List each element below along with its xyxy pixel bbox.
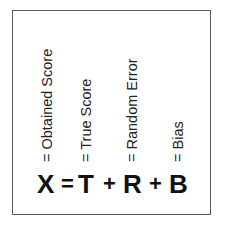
term-b: B <box>169 171 188 197</box>
label-random-error: = Random Error <box>125 58 140 162</box>
operator-plus-2: + <box>149 173 162 195</box>
term-x: X <box>37 171 54 197</box>
operator-equals: = <box>61 173 74 195</box>
label-obtained-score: = Obtained Score <box>40 49 55 162</box>
label-true-score: = True Score <box>79 79 94 162</box>
operator-plus-1: + <box>103 173 116 195</box>
term-r: R <box>123 171 142 197</box>
term-t: T <box>78 171 94 197</box>
label-bias: = Bias <box>171 121 186 162</box>
